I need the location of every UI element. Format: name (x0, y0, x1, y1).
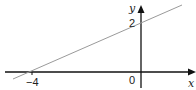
y-axis-arrow-icon (138, 5, 145, 13)
y-intercept-label: 2 (129, 17, 135, 29)
x-axis-label: x (188, 77, 195, 90)
x-axis-arrow-icon (188, 69, 196, 76)
x-intercept-label: −4 (26, 76, 39, 88)
graph-line (13, 5, 182, 79)
graph: y 2 0 x −4 (0, 0, 196, 90)
origin-label: 0 (129, 74, 135, 86)
y-axis-label: y (128, 2, 136, 15)
